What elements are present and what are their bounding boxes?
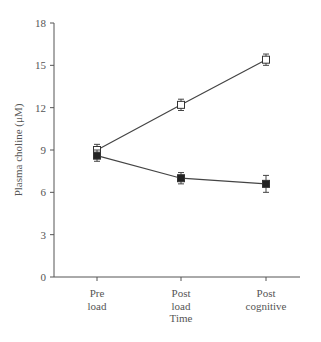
y-axis-label: Plasma choline (μM) xyxy=(12,103,25,196)
x-tick-label: load xyxy=(88,300,107,312)
x-tick-label: Post xyxy=(257,287,276,299)
x-tick-label: cognitive xyxy=(246,300,287,312)
filled-square-marker xyxy=(263,180,270,187)
axes: 0369121518PreloadPostloadPostcognitive xyxy=(35,17,300,312)
y-tick-label: 9 xyxy=(41,144,47,156)
y-tick-label: 6 xyxy=(41,186,47,198)
y-tick-label: 12 xyxy=(35,102,46,114)
y-tick-label: 3 xyxy=(41,229,47,241)
open-square-marker xyxy=(263,56,270,63)
x-axis-label: Time xyxy=(170,312,193,324)
data-series xyxy=(94,54,270,192)
x-tick-label: load xyxy=(172,300,191,312)
y-tick-label: 18 xyxy=(35,17,47,29)
x-tick-label: Post xyxy=(172,287,191,299)
y-tick-label: 15 xyxy=(35,59,47,71)
line-chart: 0369121518PreloadPostloadPostcognitive P… xyxy=(0,0,321,342)
y-tick-label: 0 xyxy=(41,271,47,283)
filled-square-marker xyxy=(178,175,185,182)
x-tick-label: Pre xyxy=(90,287,105,299)
open-square-marker xyxy=(178,101,185,108)
filled-square-marker xyxy=(94,152,101,159)
